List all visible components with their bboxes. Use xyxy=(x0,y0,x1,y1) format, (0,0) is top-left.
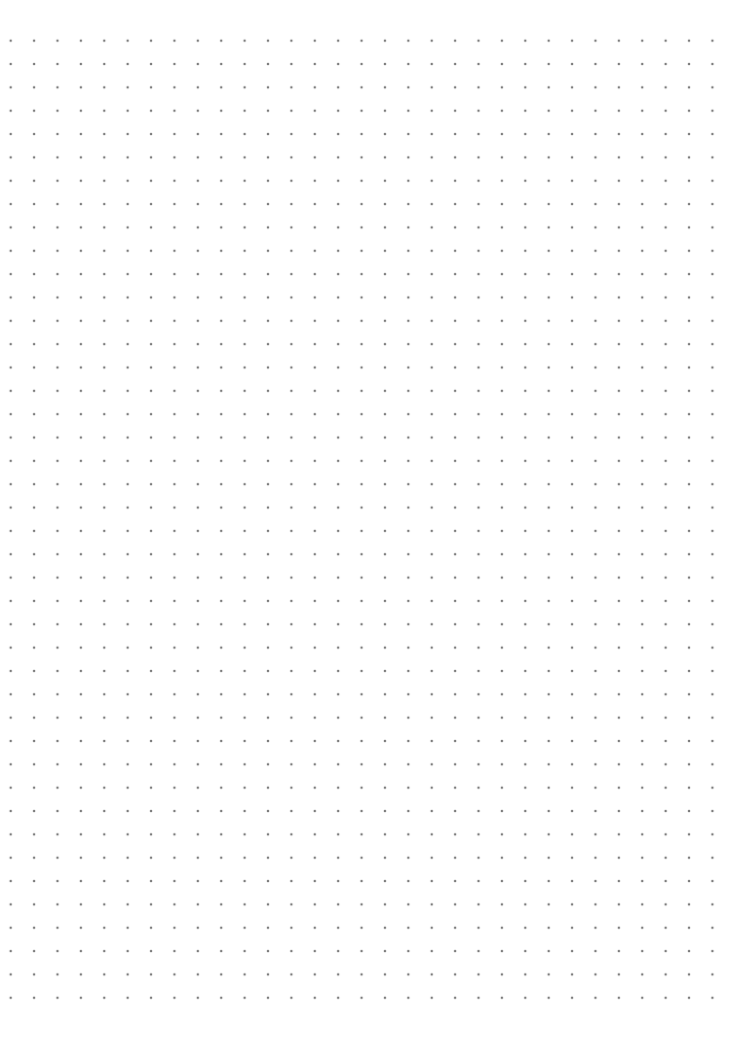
dot-grid-pattern xyxy=(0,29,725,1010)
dot-grid-page xyxy=(0,0,753,1063)
